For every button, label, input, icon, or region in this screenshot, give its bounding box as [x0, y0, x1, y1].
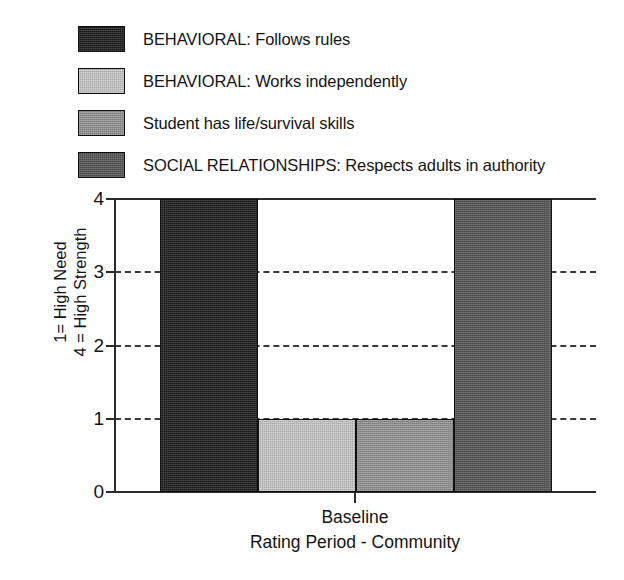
y-axis-title: 1= High Need 4 = High Strength [50, 162, 90, 422]
x-axis-title: Rating Period - Community [95, 534, 615, 552]
plot-area [115, 199, 595, 492]
y-axis-title-line1: 1= High Need [50, 162, 70, 422]
bar-series-3 [454, 199, 552, 492]
bar-series-1 [258, 419, 356, 492]
x-axis-tick [354, 492, 356, 503]
y-axis-tick-label: 0 [68, 482, 104, 501]
bar-series-0 [160, 199, 258, 492]
bar-chart: 01234 1= High Need 4 = High Strength Bas… [0, 0, 624, 580]
x-axis-tick-label: Baseline [115, 509, 595, 527]
y-axis-title-line2: 4 = High Strength [70, 162, 90, 422]
bar-series-2 [356, 419, 454, 492]
